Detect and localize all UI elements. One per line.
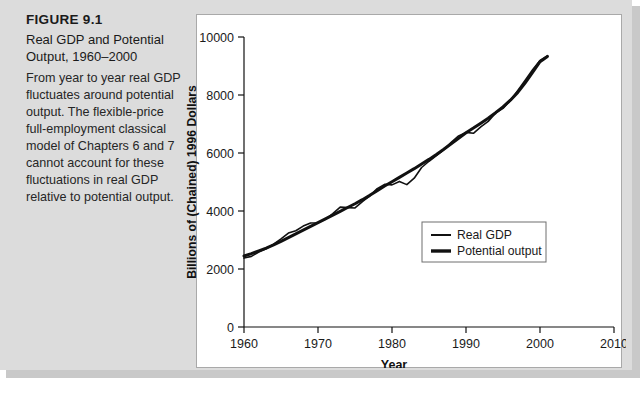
y-axis-title: Billions of (Chained) 1996 Dollars [186,85,199,279]
legend-label: Real GDP [457,228,512,242]
panel-shadow-bottom [6,370,638,378]
y-tick-label: 10000 [199,31,234,45]
x-tick-label: 1990 [452,337,480,351]
y-tick-label: 8000 [206,89,234,103]
chart-plot-area: 0200040006000800010000196019701980199020… [186,14,626,368]
legend-label: Potential output [457,244,542,258]
figure-caption-column: FIGURE 9.1 Real GDP and Potential Output… [26,12,186,205]
gdp-potential-output-line-chart: 0200040006000800010000196019701980199020… [186,14,626,368]
x-tick-label: 1970 [304,337,332,351]
x-tick-label: 2010 [600,337,626,351]
figure-9-1-root: FIGURE 9.1 Real GDP and Potential Output… [0,0,642,393]
x-axis-title: Year [381,358,408,368]
x-tick-label: 2000 [526,337,554,351]
x-tick-label: 1960 [230,337,258,351]
y-tick-label: 0 [227,321,234,335]
y-tick-label: 4000 [206,205,234,219]
x-tick-label: 1980 [378,337,406,351]
figure-caption-text: From year to year real GDP fluctuates ar… [26,70,186,205]
figure-number: FIGURE 9.1 [26,12,186,29]
panel-shadow-right [632,6,640,378]
figure-title: Real GDP and Potential Output, 1960–2000 [26,31,186,66]
y-tick-label: 6000 [206,147,234,161]
y-tick-label: 2000 [206,263,234,277]
